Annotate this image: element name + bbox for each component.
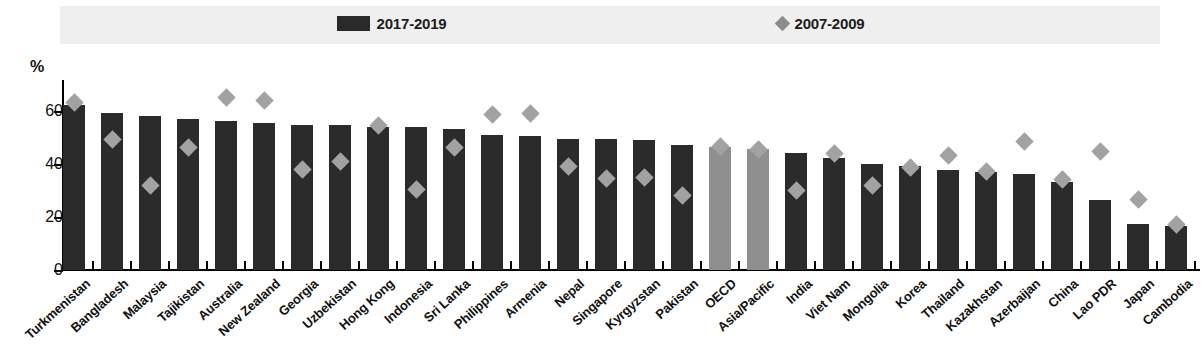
diamond-new-zealand — [255, 91, 273, 109]
bar-kyrgyzstan — [633, 140, 655, 270]
x-axis-tick-mark — [1118, 261, 1120, 270]
x-axis-tick-mark — [434, 261, 436, 270]
bar-turkmenistan — [63, 105, 85, 270]
diamond-australia — [217, 88, 235, 106]
y-axis-tick-label: 60 — [17, 102, 63, 120]
x-axis-tick-mark — [92, 261, 94, 270]
x-axis-tick-mark — [624, 261, 626, 270]
bar-armenia — [519, 136, 541, 270]
bar-uzbekistan — [329, 125, 351, 270]
y-axis-tick-label: 20 — [17, 208, 63, 226]
x-axis-tick-mark — [814, 261, 816, 270]
x-axis-tick-mark — [206, 261, 208, 270]
x-axis-tick-mark — [282, 261, 284, 270]
x-axis-tick-mark — [586, 261, 588, 270]
bar-viet-nam — [823, 158, 845, 270]
bar-asia-pacific — [747, 149, 769, 270]
diamond-lao-pdr — [1091, 143, 1109, 161]
x-axis-tick-mark — [1194, 261, 1196, 270]
x-axis-tick-mark — [244, 261, 246, 270]
x-axis-tick-mark — [472, 261, 474, 270]
x-axis-tick-mark — [738, 261, 740, 270]
y-axis-tick-label: 40 — [17, 155, 63, 173]
x-axis-tick-mark — [776, 261, 778, 270]
x-axis-tick-mark — [662, 261, 664, 270]
bar-thailand — [937, 170, 959, 270]
x-axis-tick-mark — [890, 261, 892, 270]
x-axis-tick-mark — [396, 261, 398, 270]
bar-india — [785, 153, 807, 270]
x-axis-tick-mark — [320, 261, 322, 270]
bar-pakistan — [671, 145, 693, 270]
chart-plot-area: % 0204060 TurkmenistanBangladeshMalaysia… — [0, 0, 1201, 355]
x-axis-tick-mark — [168, 261, 170, 270]
diamond-azerbaijan — [1015, 132, 1033, 150]
y-axis-tick-label: 0 — [17, 261, 63, 279]
diamond-armenia — [521, 104, 539, 122]
x-axis-tick-mark — [1156, 261, 1158, 270]
bar-singapore — [595, 139, 617, 270]
bar-lao-pdr — [1089, 200, 1111, 270]
category-label-armenia: Armenia — [501, 276, 549, 321]
diamond-thailand — [939, 147, 957, 165]
bar-hong-kong — [367, 127, 389, 270]
x-axis-tick-mark — [1004, 261, 1006, 270]
diamond-japan — [1129, 190, 1147, 208]
x-axis-tick-mark — [510, 261, 512, 270]
diamond-philippines — [483, 105, 501, 123]
bar-georgia — [291, 125, 313, 270]
x-axis-tick-mark — [852, 261, 854, 270]
bar-oecd — [709, 147, 731, 270]
x-axis-tick-mark — [548, 261, 550, 270]
bar-philippines — [481, 135, 503, 270]
bar-azerbaijan — [1013, 174, 1035, 270]
y-axis-unit-label: % — [30, 58, 44, 76]
x-axis-tick-mark — [130, 261, 132, 270]
bar-australia — [215, 121, 237, 270]
bar-japan — [1127, 224, 1149, 270]
x-axis-tick-mark — [966, 261, 968, 270]
x-axis-tick-mark — [928, 261, 930, 270]
category-label-india: India — [783, 276, 815, 307]
bar-new-zealand — [253, 123, 275, 270]
bar-kazakhstan — [975, 172, 997, 270]
x-axis-tick-mark — [1080, 261, 1082, 270]
x-axis-tick-mark — [358, 261, 360, 270]
x-axis-tick-mark — [700, 261, 702, 270]
bar-china — [1051, 182, 1073, 270]
x-axis-tick-mark — [1042, 261, 1044, 270]
bar-korea — [899, 166, 921, 270]
